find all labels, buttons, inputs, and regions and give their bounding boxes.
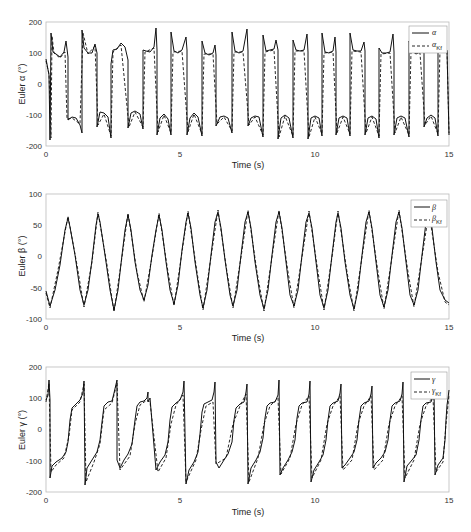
y-axis-label: Euler γ (°) (17, 410, 27, 450)
ytick: 200 (29, 363, 43, 372)
ytick: 200 (29, 18, 43, 27)
xtick: 0 (44, 150, 49, 159)
xtick: 10 (311, 150, 320, 159)
series-alpha (46, 28, 449, 140)
ytick: -200 (26, 142, 43, 151)
x-ticks: 0 5 10 15 (44, 496, 454, 505)
ytick: 0 (38, 252, 43, 261)
y-ticks: 200 100 0 -100 -200 (26, 18, 43, 151)
legend: α αKf (409, 26, 447, 53)
xtick: 5 (178, 150, 183, 159)
ytick: 100 (29, 394, 43, 403)
plot-alpha: 200 100 0 -100 -200 0 5 10 15 Time (s) E… (17, 18, 454, 170)
y-ticks: 200 100 0 -100 -200 (26, 363, 43, 497)
legend: β βKf (411, 200, 447, 227)
xtick: 10 (311, 323, 320, 332)
legend-label-beta: β (431, 203, 436, 212)
ytick: 0 (38, 425, 43, 434)
ytick: 100 (29, 49, 43, 58)
y-axis-label: Euler α (°) (17, 64, 27, 105)
xtick: 10 (311, 496, 320, 505)
xtick: 15 (445, 496, 454, 505)
ytick: 50 (33, 221, 42, 230)
xtick: 0 (44, 496, 49, 505)
legend: γ γKf (411, 372, 447, 399)
x-ticks: 0 5 10 15 (44, 323, 454, 332)
ytick: 0 (38, 80, 43, 89)
ytick: -100 (26, 111, 43, 120)
ytick: 100 (29, 190, 43, 199)
ytick: -200 (26, 488, 43, 497)
x-axis-label: Time (s) (232, 333, 265, 343)
x-ticks: 0 5 10 15 (44, 150, 454, 159)
plot-beta: 100 50 0 -50 -100 0 5 10 15 Time (s) Eul… (17, 190, 454, 343)
xtick: 15 (445, 323, 454, 332)
ytick: -100 (26, 457, 43, 466)
x-axis-label: Time (s) (232, 507, 265, 517)
figure: 200 100 0 -100 -200 0 5 10 15 Time (s) E… (0, 0, 471, 532)
xtick: 5 (178, 323, 183, 332)
xtick: 0 (44, 323, 49, 332)
plot-gamma: 200 100 0 -100 -200 0 5 10 15 Time (s) E… (17, 363, 454, 517)
x-axis-label: Time (s) (232, 160, 265, 170)
xtick: 15 (445, 150, 454, 159)
series-beta-kf (46, 210, 449, 312)
ytick: -100 (26, 315, 43, 324)
y-axis-label: Euler β (°) (17, 236, 27, 277)
xtick: 5 (178, 496, 183, 505)
y-ticks: 100 50 0 -50 -100 (26, 190, 43, 324)
ytick: -50 (30, 284, 42, 293)
